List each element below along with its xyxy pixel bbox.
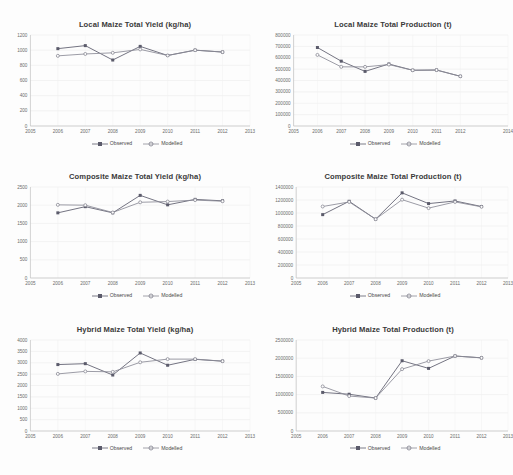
svg-text:1400000: 1400000: [275, 185, 293, 190]
svg-text:2013: 2013: [245, 281, 256, 286]
legend-label-observed: Observed: [110, 445, 133, 452]
svg-text:300000: 300000: [275, 89, 291, 94]
svg-text:500: 500: [20, 417, 28, 422]
plot-area: 0500100015002000250020052006200720082009…: [6, 183, 258, 291]
svg-text:2008: 2008: [108, 281, 119, 286]
legend-label-observed: Observed: [110, 140, 133, 147]
svg-text:600000: 600000: [278, 237, 294, 242]
chart-title: Composite Maize Total Production (t): [270, 172, 513, 182]
svg-text:400000: 400000: [278, 250, 294, 255]
svg-text:400: 400: [20, 93, 28, 98]
svg-text:2007: 2007: [336, 129, 347, 134]
plot-area: 0500000100000015000002000000250000020052…: [264, 336, 513, 444]
legend-marker-modelled: [143, 141, 159, 147]
legend-marker-modelled: [401, 445, 417, 451]
svg-text:2006: 2006: [312, 129, 323, 134]
svg-text:2011: 2011: [432, 129, 442, 134]
svg-text:2006: 2006: [318, 433, 329, 438]
legend-item-modelled: Modelled: [401, 292, 440, 299]
svg-text:500: 500: [20, 258, 28, 263]
chart-title: Composite Maize Total Yield (kg/ha): [12, 172, 258, 182]
chart-legend: Observed Modelled: [274, 292, 513, 299]
legend-marker-modelled: [143, 445, 159, 451]
legend-label-modelled: Modelled: [161, 140, 182, 147]
svg-text:2009: 2009: [397, 281, 408, 286]
svg-text:2009: 2009: [135, 281, 146, 286]
svg-text:2008: 2008: [371, 433, 382, 438]
svg-text:4000: 4000: [17, 337, 28, 342]
chart-title: Hybrid Maize Total Yield (kg/ha): [12, 325, 258, 335]
svg-text:2012: 2012: [455, 129, 466, 134]
svg-text:2008: 2008: [108, 433, 119, 438]
svg-text:1000000: 1000000: [275, 392, 293, 397]
svg-text:2009: 2009: [135, 129, 146, 134]
legend-item-observed: Observed: [92, 140, 133, 147]
svg-text:2010: 2010: [163, 281, 174, 286]
legend-label-observed: Observed: [368, 140, 391, 147]
legend-marker-observed: [92, 293, 108, 299]
svg-text:2011: 2011: [190, 129, 200, 134]
svg-text:2006: 2006: [318, 281, 329, 286]
plot-area: 0200000400000600000800000100000012000001…: [264, 183, 513, 291]
svg-text:100000: 100000: [275, 112, 291, 117]
chart-title: Hybrid Maize Total Production (t): [270, 325, 513, 335]
chart-panel-hybrid-maize-total-yield: Hybrid Maize Total Yield (kg/ha) 0500100…: [4, 319, 262, 471]
svg-text:2500: 2500: [17, 371, 28, 376]
svg-text:2011: 2011: [190, 281, 200, 286]
svg-text:1500000: 1500000: [275, 374, 293, 379]
legend-item-observed: Observed: [350, 140, 391, 147]
svg-text:1000: 1000: [17, 240, 28, 245]
legend-label-observed: Observed: [368, 292, 391, 299]
svg-text:2009: 2009: [135, 433, 146, 438]
svg-text:1200000: 1200000: [275, 198, 293, 203]
svg-text:3500: 3500: [17, 349, 28, 354]
legend-marker-modelled: [401, 141, 417, 147]
svg-text:2007: 2007: [80, 433, 91, 438]
svg-text:2008: 2008: [108, 129, 119, 134]
svg-text:2005: 2005: [288, 129, 299, 134]
svg-text:2008: 2008: [371, 281, 382, 286]
legend-item-observed: Observed: [92, 445, 133, 452]
svg-text:2005: 2005: [25, 129, 36, 134]
svg-text:2000: 2000: [17, 203, 28, 208]
svg-text:1000: 1000: [17, 48, 28, 53]
legend-item-modelled: Modelled: [401, 140, 440, 147]
svg-text:600: 600: [20, 78, 28, 83]
svg-text:500000: 500000: [275, 67, 291, 72]
svg-text:2007: 2007: [80, 129, 91, 134]
legend-item-modelled: Modelled: [143, 445, 182, 452]
svg-text:2007: 2007: [344, 281, 355, 286]
legend-marker-observed: [350, 445, 366, 451]
svg-text:2006: 2006: [53, 281, 64, 286]
legend-label-modelled: Modelled: [419, 292, 440, 299]
svg-text:200: 200: [20, 108, 28, 113]
svg-text:2009: 2009: [384, 129, 395, 134]
svg-text:2010: 2010: [423, 281, 434, 286]
chart-panel-local-maize-total-production: Local Maize Total Production (t) 0100000…: [262, 14, 513, 166]
legend-item-observed: Observed: [350, 292, 391, 299]
plot-area: 0500100015002000250030003500400020052006…: [6, 336, 258, 444]
legend-item-modelled: Modelled: [143, 140, 182, 147]
svg-text:2000000: 2000000: [275, 355, 293, 360]
svg-text:2007: 2007: [80, 281, 91, 286]
svg-text:2500000: 2500000: [275, 337, 293, 342]
legend-marker-modelled: [401, 293, 417, 299]
svg-text:3000: 3000: [17, 360, 28, 365]
svg-text:2013: 2013: [503, 433, 513, 438]
chart-title: Local Maize Total Production (t): [270, 20, 513, 30]
svg-text:800000: 800000: [275, 33, 291, 38]
svg-text:2005: 2005: [25, 281, 36, 286]
chart-legend: Observed Modelled: [274, 445, 513, 452]
legend-item-observed: Observed: [92, 292, 133, 299]
svg-text:1000: 1000: [17, 406, 28, 411]
legend-marker-modelled: [143, 293, 159, 299]
chart-grid: Local Maize Total Yield (kg/ha) 02004006…: [4, 14, 509, 471]
svg-text:2011: 2011: [190, 433, 200, 438]
svg-text:2010: 2010: [423, 433, 434, 438]
legend-marker-observed: [350, 293, 366, 299]
chart-legend: Observed Modelled: [274, 140, 513, 147]
legend-marker-observed: [92, 141, 108, 147]
plot-area: 0200400600800100012002005200620072008200…: [6, 31, 258, 139]
svg-text:2005: 2005: [291, 433, 302, 438]
chart-panel-local-maize-total-yield: Local Maize Total Yield (kg/ha) 02004006…: [4, 14, 262, 166]
